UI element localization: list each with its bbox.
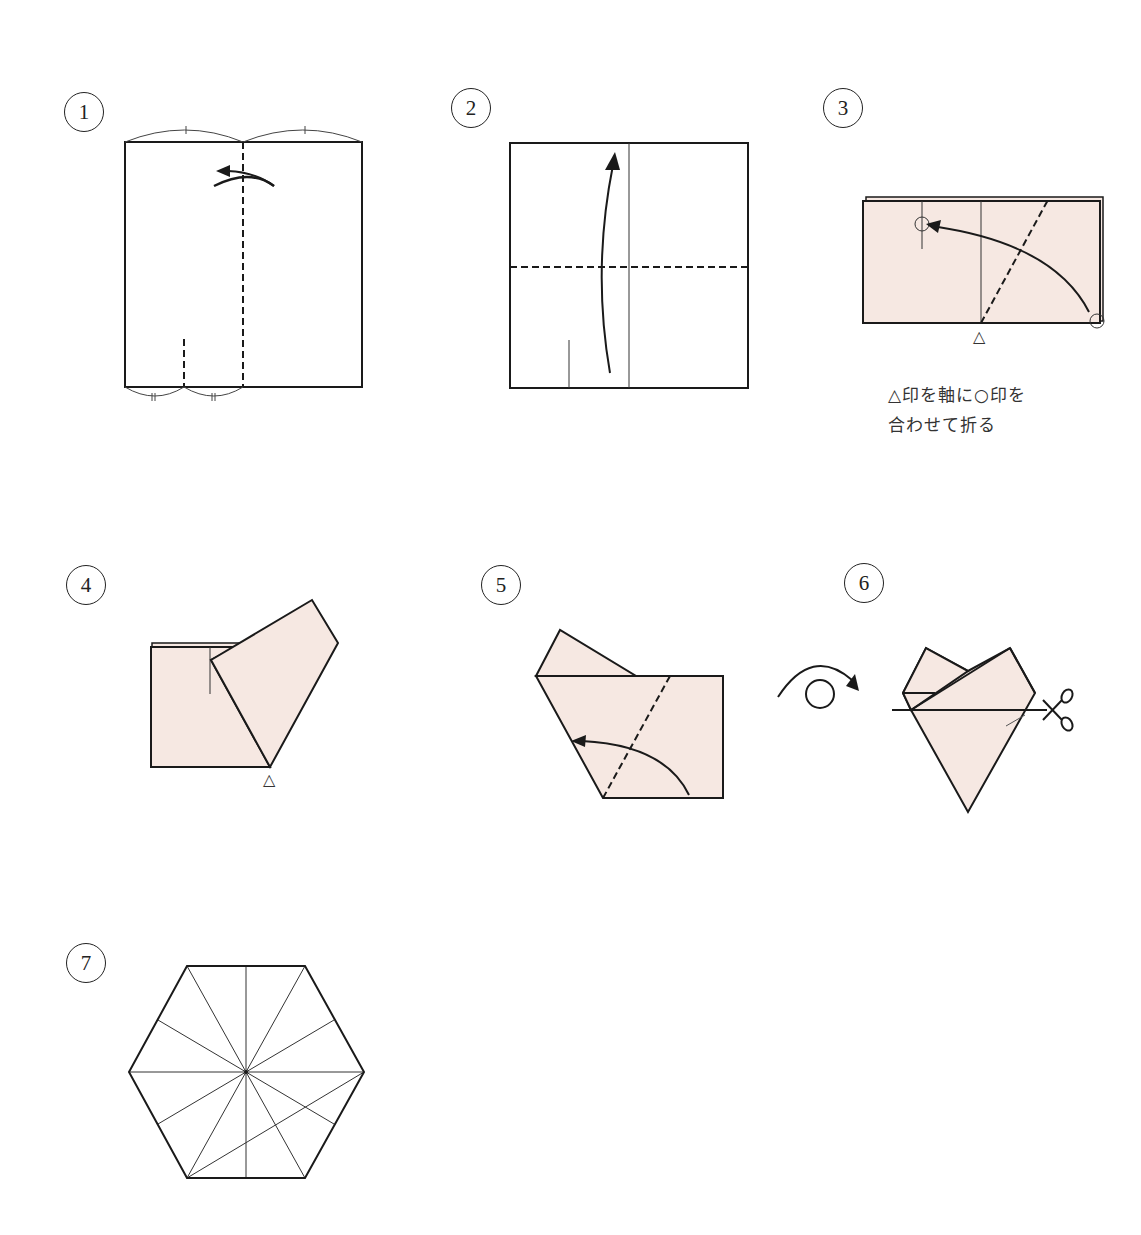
step-6-figure [760, 540, 1141, 830]
pivot-triangle-mark: △ [973, 327, 985, 346]
step-6: 6 [760, 540, 1141, 830]
step-2: 2 [440, 0, 780, 420]
step-7: 7 [0, 860, 400, 1200]
step-1: 1 [0, 0, 400, 420]
step-1-figure [0, 0, 400, 420]
step-4: 4 △ [0, 540, 400, 800]
turn-over-icon [778, 666, 859, 708]
step-3: 3 △ △印を軸に○印を 合わせて折る [800, 0, 1141, 460]
step-5-figure [440, 540, 760, 820]
step-2-figure [440, 0, 780, 420]
step-7-figure [0, 860, 400, 1200]
step-4-figure [0, 540, 400, 800]
scissors-icon [1043, 687, 1075, 732]
step-3-caption-line-1: △印を軸に○印を [888, 380, 1026, 410]
step-5: 5 [440, 540, 760, 820]
pivot-triangle-mark: △ [263, 770, 275, 789]
step-3-caption-line-2: 合わせて折る [888, 410, 996, 440]
